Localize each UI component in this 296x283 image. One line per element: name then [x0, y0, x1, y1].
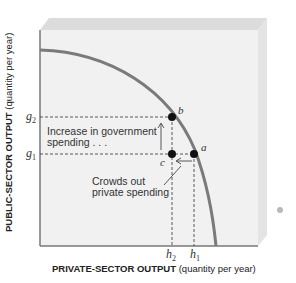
- point-b: [168, 113, 176, 121]
- x-axis-label: PRIVATE-SECTOR OUTPUT (quantity per year…: [52, 263, 256, 274]
- y-axis-label: PUBLIC-SECTOR OUTPUT (quantity per year): [3, 33, 14, 232]
- point-a: [190, 150, 198, 158]
- point-c: [168, 150, 176, 158]
- box-top-face: [40, 18, 267, 30]
- label-b: b: [178, 104, 184, 116]
- tick-g1: g1: [26, 146, 36, 162]
- label-a: a: [201, 141, 207, 153]
- tick-h2: h2: [166, 247, 176, 263]
- box-right-face: [258, 18, 267, 246]
- tick-g2: g2: [26, 109, 36, 125]
- annotation-increase: Increase in governmentspending . . .: [47, 126, 157, 148]
- decorative-mark: [277, 207, 283, 213]
- tick-h1: h1: [190, 247, 200, 263]
- annotation-crowds-out: Crowds outprivate spending: [92, 176, 169, 198]
- label-c: c: [160, 156, 165, 168]
